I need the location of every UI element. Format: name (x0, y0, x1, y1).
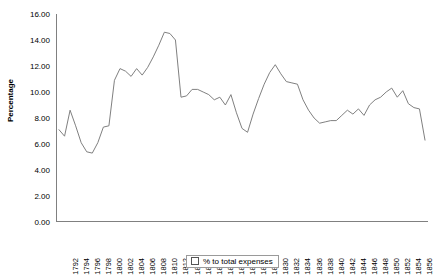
x-axis-tick-label: 1806 (148, 258, 157, 275)
x-axis-tick-label: 1854 (414, 258, 423, 275)
y-axis-tick-label: 8.00 (34, 114, 50, 123)
y-axis-title: Percentage (6, 51, 15, 151)
x-axis-tick-label: 1800 (115, 258, 124, 275)
x-axis-tick-label: 1844 (359, 258, 368, 275)
x-axis-tick-label: 1796 (92, 258, 101, 275)
x-axis-tick-label: 1852 (403, 258, 412, 275)
x-axis-tick-label: 1842 (347, 258, 356, 275)
x-axis-tick-label: 1836 (314, 258, 323, 275)
x-axis-tick-label: 1792 (70, 258, 79, 275)
x-axis-tick-label: 1846 (370, 258, 379, 275)
y-axis-tick-label: 2.00 (34, 192, 50, 201)
x-axis-tick-labels: 1792179417961798180018021804180618081810… (56, 224, 428, 258)
x-axis-tick-label: 1848 (381, 258, 390, 275)
series-line-percent-to-total-expenses (59, 32, 425, 153)
line-chart-svg (56, 14, 428, 222)
x-axis-tick-label: 1832 (292, 258, 301, 275)
axes-group (56, 14, 428, 222)
x-axis-tick-label: 1840 (336, 258, 345, 275)
legend-marker-icon (191, 257, 199, 265)
chart-legend: % to total expenses (186, 255, 279, 268)
legend-label: % to total expenses (203, 257, 273, 266)
y-axis-tick-labels: 0.002.004.006.008.0010.0012.0014.0016.00 (18, 0, 54, 232)
x-axis-tick-label: 1856 (425, 258, 434, 275)
y-axis-title-wrap: Percentage (0, 0, 20, 232)
x-axis-tick-label: 1834 (303, 258, 312, 275)
x-axis-tick-label: 1802 (126, 258, 135, 275)
chart-container: Percentage 0.002.004.006.008.0010.0012.0… (0, 0, 435, 275)
x-axis-tick-label: 1838 (325, 258, 334, 275)
y-axis-tick-label: 10.00 (30, 88, 50, 97)
y-axis-tick-label: 4.00 (34, 166, 50, 175)
y-axis-tick-label: 14.00 (30, 36, 50, 45)
x-axis-tick-label: 1830 (281, 258, 290, 275)
x-axis-tick-label: 1798 (103, 258, 112, 275)
x-axis-tick-label: 1808 (159, 258, 168, 275)
y-axis-tick-label: 12.00 (30, 62, 50, 71)
y-axis-tick-label: 6.00 (34, 140, 50, 149)
x-axis-tick-label: 1850 (392, 258, 401, 275)
x-axis-tick-label: 1804 (137, 258, 146, 275)
x-axis-tick-label: 1794 (81, 258, 90, 275)
y-axis-tick-label: 0.00 (34, 218, 50, 227)
plot-area (56, 14, 428, 222)
x-axis-tick-label: 1810 (170, 258, 179, 275)
y-axis-tick-label: 16.00 (30, 10, 50, 19)
